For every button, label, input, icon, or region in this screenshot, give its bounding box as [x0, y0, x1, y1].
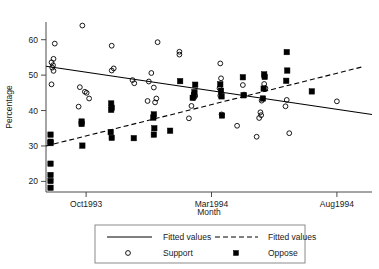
data-point-support	[87, 96, 92, 101]
fitted-line-solid	[46, 66, 372, 114]
data-point-support	[77, 85, 82, 90]
legend-label-support: Support	[163, 248, 193, 258]
data-point-support	[240, 83, 245, 88]
y-tick-label: 20	[29, 176, 39, 186]
y-tick-group: 2030405060	[29, 35, 46, 187]
data-point-oppose	[219, 94, 224, 99]
data-point-oppose	[218, 88, 223, 93]
data-point-oppose	[48, 172, 53, 177]
legend-label-oppose: Oppose	[268, 248, 298, 258]
data-point-support	[145, 99, 150, 104]
data-point-oppose	[241, 93, 246, 98]
data-point-oppose	[152, 126, 157, 131]
data-point-oppose	[261, 86, 266, 91]
data-point-oppose	[262, 74, 267, 79]
data-point-oppose	[177, 78, 182, 83]
data-point-oppose	[285, 68, 290, 73]
data-point-oppose	[193, 82, 198, 87]
data-point-support	[235, 123, 240, 128]
data-point-support	[80, 23, 85, 28]
data-point-support	[218, 61, 223, 66]
data-point-support	[187, 116, 192, 121]
chart-container: 2030405060 Oct1993Mar1994Aug1994 Percent…	[0, 0, 379, 269]
data-points-group	[48, 23, 339, 190]
data-point-oppose	[284, 49, 289, 54]
data-point-oppose	[190, 95, 195, 100]
y-tick-label: 40	[29, 106, 39, 116]
data-point-support	[149, 71, 154, 76]
x-tick-label: Aug1994	[320, 199, 354, 209]
data-point-support	[76, 104, 81, 109]
scatter-plot: 2030405060 Oct1993Mar1994Aug1994 Percent…	[0, 0, 379, 269]
data-point-support	[109, 43, 114, 48]
fitted-lines-group	[46, 66, 372, 146]
data-point-oppose	[48, 178, 53, 183]
data-point-oppose	[108, 129, 113, 134]
x-tick-label: Oct1993	[70, 199, 102, 209]
data-point-oppose	[79, 121, 84, 126]
data-point-oppose	[109, 135, 114, 140]
data-point-support	[151, 85, 156, 90]
data-point-support	[219, 76, 224, 81]
data-point-support	[287, 131, 292, 136]
data-point-oppose	[48, 185, 53, 190]
y-axis-title: Percentage	[4, 85, 14, 129]
data-point-oppose	[151, 115, 156, 120]
legend-filled-square-icon	[234, 251, 239, 256]
data-point-oppose	[48, 161, 53, 166]
data-point-oppose	[219, 113, 224, 118]
legend-label-fitted-support: Fitted values	[163, 232, 211, 242]
data-point-oppose	[218, 82, 223, 87]
y-tick-label: 50	[29, 70, 39, 80]
data-point-support	[155, 40, 160, 45]
legend-open-circle-icon	[126, 251, 131, 256]
data-point-oppose	[151, 132, 156, 137]
legend: Fitted values Fitted values Support Oppo…	[95, 225, 316, 263]
data-point-support	[334, 99, 339, 104]
data-point-oppose	[260, 96, 265, 101]
data-point-oppose	[80, 143, 85, 148]
data-point-oppose	[48, 132, 53, 137]
data-point-oppose	[131, 135, 136, 140]
data-point-support	[283, 104, 288, 109]
data-point-oppose	[109, 107, 114, 112]
data-point-oppose	[240, 75, 245, 80]
y-tick-label: 30	[29, 141, 39, 151]
data-point-support	[254, 134, 259, 139]
data-point-oppose	[167, 128, 172, 133]
data-point-support	[52, 41, 57, 46]
data-point-support	[49, 82, 54, 87]
legend-label-fitted-oppose: Fitted values	[268, 232, 316, 242]
data-point-oppose	[309, 89, 314, 94]
data-point-oppose	[48, 140, 53, 145]
data-point-oppose	[284, 78, 289, 83]
x-axis-title: Month	[197, 207, 221, 217]
y-tick-label: 60	[29, 35, 39, 45]
data-point-support	[189, 104, 194, 109]
